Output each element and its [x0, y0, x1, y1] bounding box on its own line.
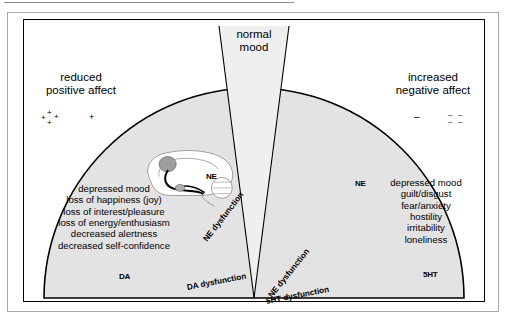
- brain-tag-lower-right: 5HT: [423, 270, 438, 279]
- minus-cluster: – – – –: [448, 110, 470, 128]
- left-symptom-0: depressed mood: [34, 183, 194, 194]
- left-symptom-list: depressed mood loss of happiness (joy) l…: [34, 183, 194, 251]
- brain-tag-upper-left: NE: [206, 172, 217, 181]
- plus-single: +: [89, 112, 94, 122]
- normal-mood-line2: mood: [204, 41, 304, 54]
- brain-tag-upper-right: NE: [355, 179, 366, 188]
- increased-negative-affect-label: increased negative affect: [372, 71, 494, 97]
- left-symptom-4: decreased alertness: [34, 228, 194, 239]
- right-symptom-list: depressed mood guilt/disgust fear/anxiet…: [366, 177, 486, 245]
- figure-page: + + + + + – – – – – normal mood reduced …: [0, 0, 509, 327]
- normal-mood-line1: normal: [204, 28, 304, 41]
- left-corner-line2: positive affect: [21, 84, 141, 97]
- right-symptom-3: hostility: [366, 211, 486, 222]
- plus-cluster: + + + +: [41, 108, 65, 128]
- left-symptom-5: decreased self-confidence: [34, 240, 194, 251]
- right-symptom-0: depressed mood: [366, 177, 486, 188]
- minus-single: –: [414, 111, 420, 122]
- reduced-positive-affect-label: reduced positive affect: [21, 71, 141, 97]
- left-corner-line1: reduced: [21, 71, 141, 84]
- right-symptom-4: irritability: [366, 222, 486, 233]
- normal-mood-label: normal mood: [204, 28, 304, 54]
- right-corner-line1: increased: [372, 71, 494, 84]
- right-corner-line2: negative affect: [372, 84, 494, 97]
- left-symptom-2: loss of interest/pleasure: [34, 206, 194, 217]
- left-symptom-3: loss of energy/enthusiasm: [34, 217, 194, 228]
- brain-tag-lower-left: DA: [119, 272, 130, 281]
- left-symptom-1: loss of happiness (joy): [34, 194, 194, 205]
- right-symptom-1: guilt/disgust: [366, 188, 486, 199]
- right-symptom-2: fear/anxiety: [366, 200, 486, 211]
- right-symptom-5: loneliness: [366, 234, 486, 245]
